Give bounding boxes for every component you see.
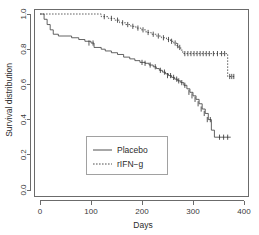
x-axis-title: Days bbox=[133, 220, 152, 230]
x-tick-label-200: 200 bbox=[135, 207, 149, 216]
y-tick-label-0.6: 0.6 bbox=[19, 78, 28, 90]
chart-legend: Placebo rIFN−g bbox=[87, 137, 168, 175]
y-tick-label-0.0: 0.0 bbox=[19, 184, 28, 196]
y-axis-ticks: 0.00.20.40.60.81.0 bbox=[19, 8, 31, 196]
y-tick-label-0.4: 0.4 bbox=[19, 113, 28, 125]
x-tick-label-300: 300 bbox=[186, 207, 200, 216]
censoring-marks bbox=[89, 14, 234, 140]
y-tick-label-0.2: 0.2 bbox=[19, 149, 28, 161]
kaplan-meier-chart: 0100200300400 0.00.20.40.60.81.0 Days Su… bbox=[0, 0, 259, 235]
survival-curves bbox=[40, 14, 235, 137]
legend-label-rifn-g: rIFN−g bbox=[117, 159, 143, 169]
y-tick-label-0.8: 0.8 bbox=[19, 43, 28, 55]
x-tick-label-100: 100 bbox=[84, 207, 98, 216]
x-tick-label-0: 0 bbox=[38, 207, 43, 216]
survival-plot-figure: 0100200300400 0.00.20.40.60.81.0 Days Su… bbox=[0, 0, 259, 235]
y-tick-label-1.0: 1.0 bbox=[19, 8, 28, 20]
x-tick-label-400: 400 bbox=[237, 207, 251, 216]
curve-rifn-g bbox=[40, 14, 235, 76]
curve-placebo bbox=[40, 14, 231, 137]
y-axis-title: Survival distribution bbox=[4, 63, 14, 137]
x-axis-ticks: 0100200300400 bbox=[38, 201, 251, 216]
legend-label-placebo: Placebo bbox=[117, 145, 148, 155]
